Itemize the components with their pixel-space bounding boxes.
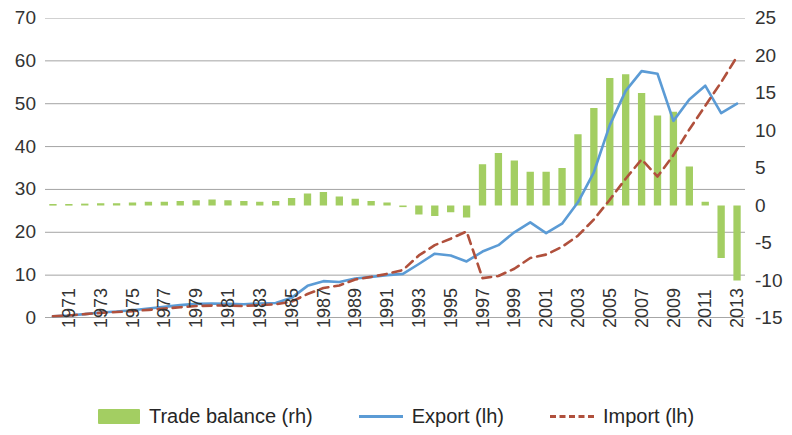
x-axis-tick-label: 2013 xyxy=(728,288,746,328)
chart-canvas xyxy=(45,18,745,318)
x-axis-tick-label: 1999 xyxy=(505,288,523,328)
right-axis-tick-label: 0 xyxy=(755,196,792,215)
bar xyxy=(606,78,613,206)
right-axis-tick-label: 15 xyxy=(755,83,792,102)
plot-area xyxy=(45,18,745,318)
bar xyxy=(702,202,709,206)
left-axis-tick-label: 0 xyxy=(0,308,36,327)
legend-dashed-line-swatch-icon xyxy=(550,415,594,418)
bar xyxy=(129,203,136,206)
legend-label: Import (lh) xyxy=(603,405,694,428)
legend-item[interactable]: Export (lh) xyxy=(359,405,504,428)
left-axis-tick-label: 10 xyxy=(0,265,36,284)
bar xyxy=(145,202,152,206)
x-axis-tick-label: 1995 xyxy=(442,288,460,328)
x-axis-tick-label: 1997 xyxy=(474,288,492,328)
bar xyxy=(224,200,231,205)
x-axis-tick-label: 1993 xyxy=(410,288,428,328)
right-axis-tick-label: -10 xyxy=(755,271,792,290)
legend-bar-swatch-icon xyxy=(98,409,140,424)
bar xyxy=(590,108,597,206)
left-axis-tick-label: 60 xyxy=(0,51,36,70)
left-axis-tick-label: 30 xyxy=(0,179,36,198)
bar xyxy=(431,206,438,217)
x-axis-tick-label: 2003 xyxy=(569,288,587,328)
bar xyxy=(638,93,645,206)
bar xyxy=(65,204,72,206)
bar xyxy=(192,200,199,205)
bar xyxy=(415,206,422,215)
bar xyxy=(177,201,184,206)
bar xyxy=(463,206,470,218)
x-axis-tick-label: 1981 xyxy=(219,288,237,328)
bar xyxy=(208,200,215,206)
x-axis-tick-label: 1971 xyxy=(60,288,78,328)
chart-root: 010203040506070 -15-10-50510152025 19711… xyxy=(0,0,792,435)
x-axis-tick-label: 1973 xyxy=(92,288,110,328)
x-axis-tick-label: 2005 xyxy=(601,288,619,328)
x-axis-tick-label: 1987 xyxy=(315,288,333,328)
bar xyxy=(479,164,486,205)
bar xyxy=(558,168,565,206)
bar xyxy=(288,198,295,206)
bar xyxy=(97,203,104,205)
legend-label: Trade balance (rh) xyxy=(149,405,313,428)
x-axis-tick-label: 1991 xyxy=(378,288,396,328)
bar xyxy=(495,153,502,206)
bar xyxy=(527,172,534,206)
left-axis-tick-label: 40 xyxy=(0,137,36,156)
x-axis-tick-label: 2007 xyxy=(633,288,651,328)
legend-line-swatch-icon xyxy=(359,415,403,418)
bar xyxy=(383,203,390,206)
bar xyxy=(256,202,263,206)
bar xyxy=(352,199,359,206)
x-axis-tick-label: 1983 xyxy=(251,288,269,328)
x-axis-tick-label: 1975 xyxy=(124,288,142,328)
left-axis-tick-label: 70 xyxy=(0,8,36,27)
bar xyxy=(113,203,120,205)
bar xyxy=(542,172,549,206)
legend-label: Export (lh) xyxy=(412,405,504,428)
legend-item[interactable]: Trade balance (rh) xyxy=(98,405,313,428)
legend-item[interactable]: Import (lh) xyxy=(550,405,694,428)
x-axis-tick-label: 2001 xyxy=(537,288,555,328)
right-axis-tick-label: 25 xyxy=(755,8,792,27)
bar xyxy=(240,201,247,206)
right-axis-tick-label: 10 xyxy=(755,121,792,140)
right-axis-tick-label: -15 xyxy=(755,308,792,327)
bar xyxy=(161,202,168,206)
bar xyxy=(511,161,518,206)
bar xyxy=(49,204,56,206)
right-axis-tick-label: 5 xyxy=(755,158,792,177)
bar xyxy=(447,206,454,213)
x-axis-tick-label: 1977 xyxy=(155,288,173,328)
x-axis-tick-label: 1989 xyxy=(346,288,364,328)
left-axis-tick-label: 50 xyxy=(0,94,36,113)
right-axis-tick-label: 20 xyxy=(755,46,792,65)
chart-legend: Trade balance (rh)Export (lh)Import (lh) xyxy=(0,398,792,435)
export-line xyxy=(53,71,737,316)
x-axis-tick-label: 2011 xyxy=(696,289,714,328)
import-line xyxy=(53,57,737,317)
right-axis-tick-label: -5 xyxy=(755,233,792,252)
bar xyxy=(320,192,327,206)
bar xyxy=(717,206,724,259)
bar xyxy=(399,206,406,208)
bar xyxy=(686,167,693,206)
left-axis-tick-label: 20 xyxy=(0,222,36,241)
x-axis-tick-label: 1979 xyxy=(187,288,205,328)
bar xyxy=(81,204,88,206)
bar xyxy=(336,197,343,206)
bar xyxy=(272,201,279,206)
bar xyxy=(733,206,740,281)
x-axis-tick-label: 2009 xyxy=(665,288,683,328)
bar xyxy=(304,194,311,206)
bar xyxy=(670,112,677,206)
x-axis-tick-label: 1985 xyxy=(283,288,301,328)
bar xyxy=(367,201,374,206)
bar xyxy=(654,116,661,206)
